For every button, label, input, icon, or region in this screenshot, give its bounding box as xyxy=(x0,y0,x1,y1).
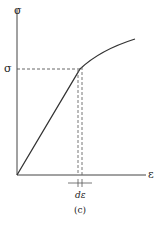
marked-stress-label: σ xyxy=(4,63,12,74)
y-axis-label: σ xyxy=(14,5,22,16)
strain-increment-label: dε xyxy=(75,191,86,200)
stress-strain-curve xyxy=(17,39,135,175)
x-axis-label: ε xyxy=(148,169,154,180)
figure-caption: (c) xyxy=(74,206,86,215)
